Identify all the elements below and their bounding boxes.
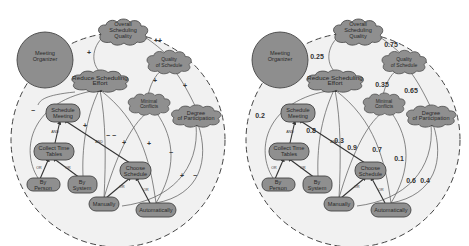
or-label: OR [65, 166, 71, 170]
svg-text:Automatically: Automatically [374, 207, 407, 213]
contribution-label: − [31, 107, 35, 114]
svg-text:ChooseSchedule: ChooseSchedule [359, 165, 382, 177]
weight-label: 0.75 [384, 41, 398, 48]
contribution-label: + [87, 49, 91, 56]
softgoal-label: MinimalConflicts [375, 99, 394, 109]
contribution-label: − [169, 149, 173, 156]
softgoal-overall-scheduling-quality: OverallSchedulingQuality [334, 19, 383, 45]
contribution-label: + [153, 77, 157, 84]
or-label: OR [378, 188, 384, 192]
diagram-left: MeetingOrganizer OverallSchedulingQualit… [11, 19, 225, 246]
contribution-label: + [147, 140, 151, 147]
svg-text:ScheduleMeeting: ScheduleMeeting [286, 107, 309, 119]
contribution-label: + [122, 139, 126, 146]
contribution-label: − − [106, 132, 116, 139]
actor-meeting-organizer: MeetingOrganizer [17, 32, 73, 88]
weight-label: 0.1 [394, 155, 404, 162]
task-by-person: ByPerson [262, 178, 295, 191]
task-by-system: BySystem [303, 176, 332, 193]
contribution-label: − [193, 172, 197, 179]
task-collect-time-tables: Collect TimeTables [34, 143, 74, 160]
weight-label: 0.6 [406, 177, 416, 184]
task-choose-schedule: ChooseSchedule [120, 162, 151, 179]
or-label: OR [143, 188, 149, 192]
and-label: AND [51, 130, 59, 134]
svg-text:ScheduleMeeting: ScheduleMeeting [51, 107, 74, 119]
actor-label: MeetingOrganizer [268, 50, 293, 62]
task-manually: Manually [89, 197, 119, 211]
task-by-system: BySystem [68, 176, 97, 193]
contribution-label: + [183, 82, 187, 89]
contribution-label: + [180, 172, 184, 179]
and-label: AND [95, 140, 103, 144]
or-label: OR [271, 166, 277, 170]
task-automatically: Automatically [371, 203, 411, 217]
weight-label: 0.9 [347, 144, 357, 151]
svg-text:Automatically: Automatically [139, 207, 172, 213]
or-label: OR [119, 185, 125, 189]
weight-label: 0.25 [310, 53, 324, 60]
svg-text:ChooseSchedule: ChooseSchedule [124, 165, 147, 177]
weight-label: 0.2 [255, 112, 265, 119]
goal-model-figure: MeetingOrganizer OverallSchedulingQualit… [0, 0, 469, 246]
task-schedule-meeting: ScheduleMeeting [46, 104, 80, 122]
task-automatically: Automatically [136, 203, 176, 217]
contribution-label: + [83, 122, 87, 129]
weight-label: 0.35 [375, 81, 389, 88]
weight-label: 0.3 [334, 137, 344, 144]
softgoal-overall-scheduling-quality: OverallSchedulingQuality [99, 19, 148, 45]
task-manually: Manually [324, 197, 354, 211]
or-label: OR [36, 166, 42, 170]
weight-label: 0.7 [372, 146, 382, 153]
and-label: AND [286, 130, 294, 134]
task-by-person: ByPerson [27, 178, 60, 191]
softgoal-label: MinimalConflicts [140, 99, 159, 109]
weight-label: 0.4 [420, 177, 430, 184]
svg-text:Manually: Manually [328, 201, 351, 207]
weight-label: 0.65 [404, 87, 418, 94]
task-schedule-meeting: ScheduleMeeting [281, 104, 315, 122]
contribution-label: ++ [154, 37, 162, 44]
diagram-right: MeetingOrganizer OverallSchedulingQualit… [246, 19, 460, 246]
task-collect-time-tables: Collect TimeTables [269, 143, 309, 160]
svg-text:Manually: Manually [93, 201, 116, 207]
task-choose-schedule: ChooseSchedule [355, 162, 386, 179]
or-label: OR [300, 166, 306, 170]
weight-label: 0.8 [306, 127, 316, 134]
actor-meeting-organizer: MeetingOrganizer [252, 32, 308, 88]
or-label: OR [354, 185, 360, 189]
actor-label: MeetingOrganizer [33, 50, 58, 62]
